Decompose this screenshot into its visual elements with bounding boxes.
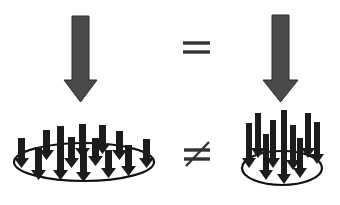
large-down-arrow-icon-right (263, 15, 298, 102)
small-arrows-concentrated (242, 110, 324, 184)
not-equal-sign-icon (184, 142, 210, 166)
relation-top: = (190, 40, 191, 41)
equals-sign-icon (183, 43, 210, 52)
spread-load-group (14, 124, 154, 182)
relation-bottom: ≠ (190, 150, 191, 151)
small-arrows-spread (14, 124, 154, 182)
large-down-arrow-icon-left (64, 16, 97, 102)
diagram-canvas: = ≠ (0, 0, 340, 205)
concentrated-load-group (242, 110, 324, 185)
